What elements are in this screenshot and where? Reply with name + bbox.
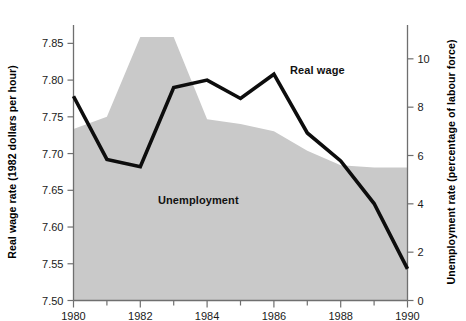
right-tick-label: 10 [418, 53, 430, 65]
left-tick-label: 7.50 [42, 295, 63, 307]
chart-svg: 7.507.557.607.657.707.757.807.85 0246810… [0, 0, 466, 321]
chart-figure: 7.507.557.607.657.707.757.807.85 0246810… [0, 0, 466, 321]
right-tick-label: 0 [418, 295, 424, 307]
left-tick-label: 7.85 [42, 37, 63, 49]
x-tick-label: 1990 [395, 310, 419, 321]
right-tick-label: 4 [418, 198, 424, 210]
right-axis-title: Unemployment rate (percentage of labour … [445, 40, 457, 285]
real-wage-label: Real wage [290, 64, 345, 76]
left-tick-label: 7.80 [42, 74, 63, 86]
x-axis-ticks: 198019821984198619881990 [61, 301, 419, 321]
right-tick-label: 2 [418, 246, 424, 258]
x-tick-label: 1980 [61, 310, 85, 321]
left-tick-label: 7.65 [42, 184, 63, 196]
left-axis-ticks: 7.507.557.607.657.707.757.807.85 [42, 37, 73, 306]
unemployment-area [74, 37, 408, 300]
left-tick-label: 7.75 [42, 111, 63, 123]
right-tick-label: 8 [418, 101, 424, 113]
unemployment-area-group [74, 37, 408, 300]
right-axis-ticks: 0246810 [408, 53, 430, 307]
x-tick-label: 1982 [128, 310, 152, 321]
left-tick-label: 7.60 [42, 221, 63, 233]
left-axis-title: Real wage rate (1982 dollars per hour) [6, 65, 18, 258]
left-tick-label: 7.70 [42, 148, 63, 160]
unemployment-label: Unemployment [158, 194, 239, 206]
x-tick-label: 1988 [328, 310, 352, 321]
left-tick-label: 7.55 [42, 258, 63, 270]
right-tick-label: 6 [418, 150, 424, 162]
x-tick-label: 1984 [195, 310, 219, 321]
x-tick-label: 1986 [262, 310, 286, 321]
